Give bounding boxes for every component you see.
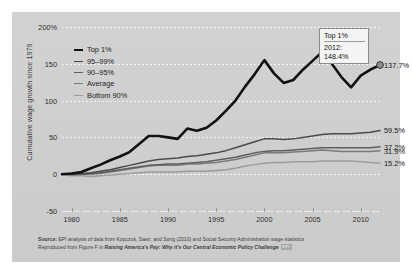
end-label-95-99-: 59.5% [384,126,405,135]
x-tick-label: 2010 [353,215,369,224]
chart-screenshot: Cumulative wage growth since 1979 200%15… [0,0,412,274]
series-line-bottom-90- [62,161,380,176]
x-tick-label: 1995 [208,215,224,224]
y-axis-title: Cumulative wage growth since 1979 [26,22,34,182]
y-tick-label: 200% [38,23,57,32]
legend-swatch-icon [74,83,83,84]
legend-item-label: Average [87,79,114,88]
legend-swatch-icon [74,49,83,51]
end-label-bottom-90-: 15.2% [384,159,405,168]
legend-item-90-95-[interactable]: 90–95% [74,67,127,78]
y-tick-label: 0 [53,170,57,179]
y-tick-label: -50 [46,207,57,216]
hover-tooltip: Top 1% 2012: 148.4% [319,28,369,64]
reproduced-title: Raising America's Pay: Why it's Our Cent… [105,244,279,250]
legend-item-top-1-[interactable]: Top 1% [74,44,127,55]
x-tick-label: 2000 [256,215,272,224]
x-tick-label: 1990 [160,215,176,224]
source-line: Source: EPI analysis of data from Kopczu… [38,235,388,243]
legend-item-label: Bottom 90% [87,91,127,100]
legend-item-95-99-[interactable]: 95–99% [74,55,127,66]
y-tick-label: 50 [49,133,57,142]
reproduced-prefix: Reproduced from Figure F in [38,244,105,250]
reproduced-line: Reproduced from Figure F in Raising Amer… [38,243,388,251]
legend-item-average[interactable]: Average [74,78,127,89]
tooltip-title: Top 1% [324,31,365,42]
x-tick-label: 2005 [304,215,320,224]
legend-item-bottom-90-[interactable]: Bottom 90% [74,90,127,101]
legend-swatch-icon [74,72,83,73]
tooltip-value: 148.4% [324,52,365,61]
legend-swatch-icon [74,61,83,62]
chart-footer: Source: EPI analysis of data from Kopczu… [38,235,388,252]
end-label-average: 31.9% [384,147,405,156]
legend-item-label: 95–99% [87,57,114,66]
chart-panel: Cumulative wage growth since 1979 200%15… [12,12,400,262]
y-tick-label: 100 [45,96,57,105]
source-label: Source: [38,236,57,242]
legend-swatch-icon [74,95,83,96]
x-tick-label: 1980 [64,215,80,224]
tooltip-year: 2012: [324,43,365,52]
y-tick-label: 150 [45,59,57,68]
hover-point-marker[interactable] [377,62,384,69]
end-label-top-1-: 137.7% [384,61,409,70]
legend-item-label: Top 1% [87,45,112,54]
series-line-95-99- [62,130,380,174]
x-tick-label: 1985 [112,215,128,224]
x-tick-mark [380,210,381,212]
source-text: EPI analysis of data from Kopczuk, Saez,… [57,236,304,242]
epi-badge-icon: EPI [281,244,292,250]
legend-item-label: 90–95% [87,68,114,77]
chart-legend: Top 1%95–99%90–95%AverageBottom 90% [74,44,127,101]
